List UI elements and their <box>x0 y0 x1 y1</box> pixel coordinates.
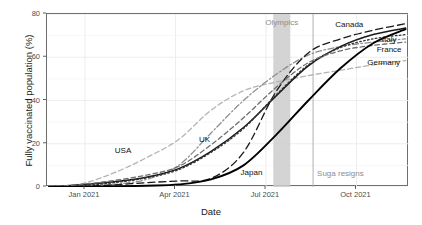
series-line-uk <box>49 39 406 187</box>
series-label-france: France <box>377 45 402 54</box>
x-tick-label: Oct 2021 <box>340 190 370 199</box>
series-line-italy <box>49 28 406 187</box>
vaccination-line-chart: Fully vaccinated population (%) Date 020… <box>0 0 422 225</box>
y-tick-label: 80 <box>14 9 40 18</box>
plot-panel: USAUKJapanCanadaItalyFranceGermanyOlympi… <box>46 13 408 186</box>
data-series-lines <box>49 24 406 187</box>
series-label-usa: USA <box>115 145 131 154</box>
x-tick-label: Jul 2021 <box>251 190 279 199</box>
y-tick-label: 20 <box>14 138 40 147</box>
series-label-italy: Italy <box>382 35 397 44</box>
series-line-usa <box>49 60 406 186</box>
x-axis-tick-labels: Jan 2021Apr 2021Jul 2021Oct 2021 <box>0 190 422 204</box>
series-label-germany: Germany <box>367 57 400 66</box>
x-tick-label: Apr 2021 <box>159 190 189 199</box>
series-label-canada: Canada <box>335 19 363 28</box>
series-label-japan: Japan <box>241 168 263 177</box>
series-line-japan <box>49 29 406 187</box>
series-label-uk: UK <box>199 135 210 144</box>
x-tick-label: Jan 2021 <box>69 190 100 199</box>
y-tick-label: 40 <box>14 95 40 104</box>
x-axis-title: Date <box>0 206 422 217</box>
annotation-label-olympics: Olympics <box>265 18 298 27</box>
y-tick-label: 60 <box>14 52 40 61</box>
annotation-label-suga-resigns: Suga resigns <box>317 169 364 178</box>
plot-area <box>47 14 409 187</box>
